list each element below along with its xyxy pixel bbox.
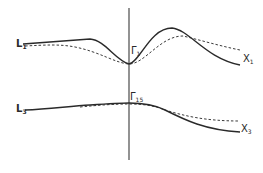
label-gamma1: Γ1 [131,46,140,57]
lower-band-solid-curve [25,103,240,132]
label-x3-main: X [241,123,248,134]
label-gamma15-sub: 15 [136,96,144,103]
label-x1: X1 [243,54,254,65]
label-x1-sub: 1 [250,58,254,65]
label-x3: X3 [241,124,252,135]
label-l3: L3 [16,104,27,115]
label-l1: L1 [16,39,27,50]
band-structure-diagram: L1 Γ1 X1 L3 Γ15 X3 [0,0,263,173]
label-gamma15: Γ15 [130,92,143,103]
diagram-canvas [0,0,263,173]
label-gamma1-sub: 1 [137,50,141,57]
label-x1-main: X [243,53,250,64]
label-x3-sub: 3 [248,128,252,135]
label-l3-sub: 3 [22,108,26,115]
lower-band-dashed-curve [80,104,240,121]
label-l1-sub: 1 [22,43,26,50]
